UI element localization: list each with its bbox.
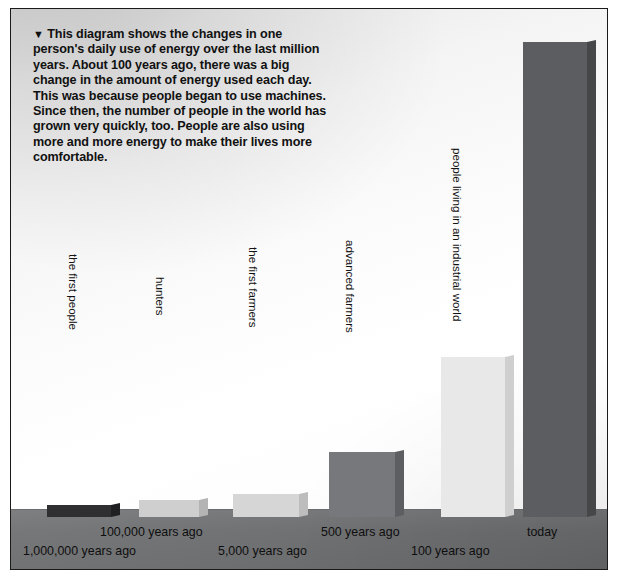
bar-advanced-farmers bbox=[329, 452, 395, 517]
bar-people-living-in-an-industrial-world bbox=[441, 357, 505, 517]
bar-front-face bbox=[47, 505, 111, 517]
bar-the-first-people bbox=[47, 505, 111, 517]
bar-side-face bbox=[505, 355, 514, 517]
energy-diagram-figure: ▼ This diagram shows the changes in one … bbox=[10, 8, 608, 570]
era-label-100-years-ago: 100 years ago bbox=[411, 544, 490, 558]
bar-label-hunters: hunters bbox=[154, 277, 167, 316]
ground-band bbox=[11, 509, 607, 570]
bar-front-face bbox=[329, 452, 395, 517]
bar-the-first-farmers bbox=[233, 494, 299, 517]
caption-triangle-icon: ▼ bbox=[33, 28, 44, 40]
bar-side-face bbox=[199, 498, 208, 517]
bar-front-face bbox=[523, 42, 587, 517]
bar-today bbox=[523, 42, 587, 517]
era-label-today: today bbox=[527, 525, 557, 539]
bar-side-face bbox=[111, 503, 120, 517]
era-label-1-000-000-years-ago: 1,000,000 years ago bbox=[23, 544, 136, 558]
bar-label-the-first-farmers: the first farmers bbox=[247, 247, 260, 328]
bar-front-face bbox=[139, 500, 199, 517]
figure-caption: ▼ This diagram shows the changes in one … bbox=[33, 27, 329, 166]
bar-side-face bbox=[395, 450, 404, 517]
bar-hunters bbox=[139, 500, 199, 517]
bar-label-the-first-people: the first people bbox=[67, 254, 80, 330]
bar-front-face bbox=[233, 494, 299, 517]
era-label-500-years-ago: 500 years ago bbox=[321, 525, 400, 539]
bar-side-face bbox=[587, 40, 596, 517]
bar-label-people-living-in-an-industrial-world: people living in an industrial world bbox=[451, 148, 464, 321]
caption-text: This diagram shows the changes in one pe… bbox=[33, 27, 326, 164]
era-label-100-000-years-ago: 100,000 years ago bbox=[100, 525, 203, 539]
era-label-5-000-years-ago: 5,000 years ago bbox=[218, 544, 307, 558]
bar-front-face bbox=[441, 357, 505, 517]
screenshot-root: ▼ This diagram shows the changes in one … bbox=[0, 0, 623, 583]
bar-side-face bbox=[299, 492, 308, 517]
bar-label-advanced-farmers: advanced farmers bbox=[344, 240, 357, 333]
